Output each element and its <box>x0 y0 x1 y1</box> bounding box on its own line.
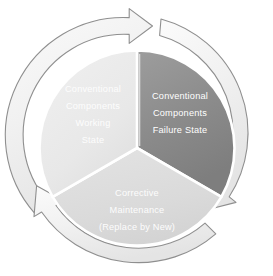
label-corrective-maintenance-line-2: Maintenance <box>110 205 165 215</box>
pie-segments <box>40 51 235 246</box>
cycle-diagram-svg: Conventional Components Failure State Co… <box>0 0 273 276</box>
label-working-state-line-4: State <box>82 135 104 145</box>
label-working-state-line-3: Working <box>76 118 111 128</box>
label-failure-state-line-2: Components <box>153 108 207 118</box>
label-failure-state: Conventional Components Failure State <box>152 91 208 135</box>
label-corrective-maintenance-line-1: Corrective <box>115 188 159 198</box>
label-working-state-line-1: Conventional <box>65 84 121 94</box>
cycle-diagram: Conventional Components Failure State Co… <box>0 0 273 276</box>
label-working-state-line-2: Components <box>66 101 120 111</box>
label-corrective-maintenance-line-3: (Replace by New) <box>99 222 175 232</box>
label-failure-state-line-1: Conventional <box>152 91 208 101</box>
label-failure-state-line-3: Failure State <box>153 125 208 135</box>
